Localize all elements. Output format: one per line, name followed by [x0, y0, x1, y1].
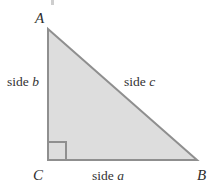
side-label-b-text: side — [7, 74, 32, 89]
side-label-b-variable: b — [32, 74, 39, 89]
vertex-label-a: A — [35, 11, 44, 26]
side-label-a-text: side — [92, 168, 117, 183]
side-label-a: side a — [92, 169, 124, 183]
side-label-c: side c — [124, 75, 155, 89]
side-label-a-variable: a — [117, 168, 124, 183]
side-label-c-text: side — [124, 74, 149, 89]
triangle-graphic — [0, 0, 215, 192]
vertex-label-b: B — [197, 168, 206, 183]
right-triangle-figure: A B C side b side c side a — [0, 0, 215, 192]
cropped-text-artifact — [51, 0, 54, 5]
side-label-b: side b — [7, 75, 39, 89]
triangle-shape — [48, 29, 197, 160]
vertex-label-c: C — [33, 168, 43, 183]
side-label-c-variable: c — [149, 74, 155, 89]
